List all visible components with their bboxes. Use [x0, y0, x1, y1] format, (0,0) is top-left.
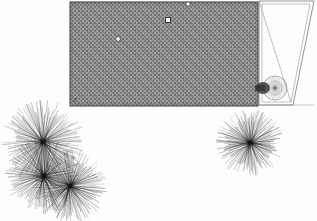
marker-dot-left — [116, 37, 121, 42]
starburst-group — [1, 100, 282, 221]
marker-dot-upper — [186, 2, 190, 6]
starburst-upper-left — [1, 100, 83, 184]
plan-sheet — [0, 0, 317, 221]
radial-fan-wheel — [255, 76, 287, 100]
drawing-canvas — [0, 0, 317, 221]
starburst-right — [216, 110, 282, 176]
marker-square-mid — [166, 18, 171, 23]
hatched-rectangle — [70, 2, 258, 106]
